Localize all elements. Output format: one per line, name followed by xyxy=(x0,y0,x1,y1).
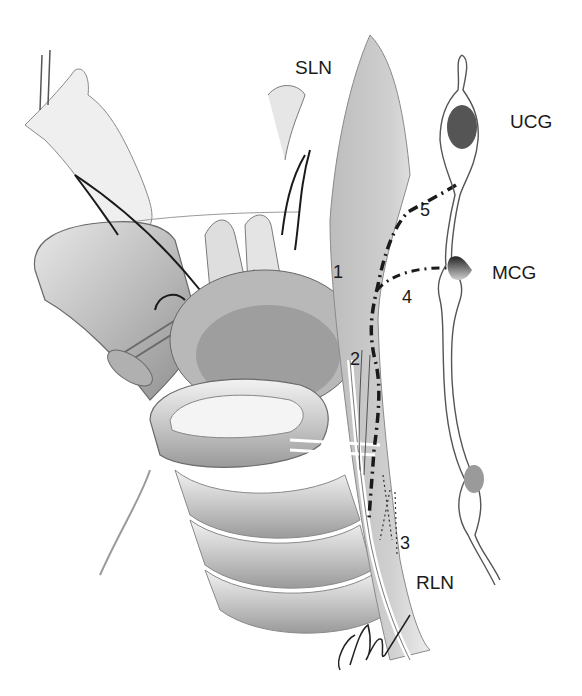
upper-cartilage xyxy=(25,50,152,225)
label-1: 1 xyxy=(333,263,343,281)
rln-label: RLN xyxy=(416,573,454,592)
larynx-illustration xyxy=(0,0,582,696)
mcg-label: MCG xyxy=(492,263,536,282)
cricoid-cartilage xyxy=(150,379,328,467)
mcg-ganglion xyxy=(448,256,472,280)
sympathetic-chain xyxy=(438,55,500,585)
trachea xyxy=(100,470,385,633)
label-4: 4 xyxy=(402,288,412,306)
ucg-label: UCG xyxy=(510,112,552,131)
label-2: 2 xyxy=(350,350,360,368)
ucg-ganglion xyxy=(447,105,477,149)
sln-label: SLN xyxy=(295,58,332,77)
label-5: 5 xyxy=(420,201,430,219)
lower-ganglion xyxy=(464,465,484,493)
label-3: 3 xyxy=(400,534,410,552)
